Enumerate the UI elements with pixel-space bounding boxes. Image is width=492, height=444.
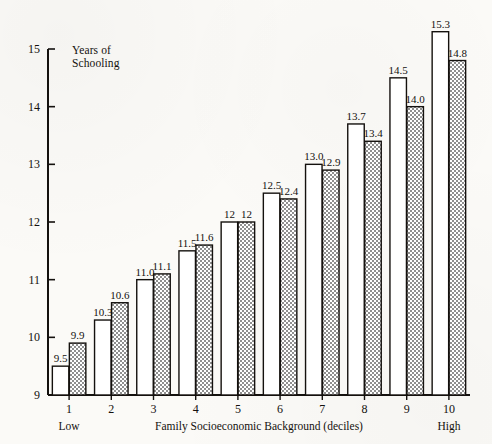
bar: [221, 222, 238, 395]
x-tick-label: 10: [443, 402, 455, 417]
x-axis-low-label: Low: [59, 420, 80, 432]
y-tick-label: 12: [8, 215, 40, 230]
bar: [365, 141, 382, 395]
bar-value-label: 14.8: [448, 47, 467, 59]
x-tick-label: 7: [319, 402, 325, 417]
bar: [238, 222, 255, 395]
bar: [449, 61, 466, 395]
x-tick-label: 3: [151, 402, 157, 417]
bar-value-label: 14.0: [406, 93, 425, 105]
bar: [306, 164, 323, 395]
bar: [112, 303, 129, 395]
bar-value-label: 12: [241, 208, 252, 220]
bar-value-label: 13.4: [363, 127, 382, 139]
y-tick-label: 10: [8, 330, 40, 345]
bar-value-label: 14.5: [389, 64, 408, 76]
bar: [137, 280, 154, 395]
bar: [154, 274, 171, 395]
y-axis-title: Years of Schooling: [72, 44, 120, 70]
bar-value-label: 9.5: [54, 352, 68, 364]
bar: [95, 320, 112, 395]
bar-value-label: 12.9: [321, 156, 340, 168]
bar-value-label: 9.9: [71, 329, 85, 341]
bar-value-label: 11.6: [195, 231, 214, 243]
x-tick-label: 1: [66, 402, 72, 417]
y-tick-label: 13: [8, 157, 40, 172]
bar: [280, 199, 297, 395]
y-tick-label: 14: [8, 99, 40, 114]
bar-value-label: 12.4: [279, 185, 298, 197]
bar: [263, 193, 280, 395]
x-tick-label: 8: [362, 402, 368, 417]
bar: [348, 124, 365, 395]
x-tick-label: 2: [108, 402, 114, 417]
bar-value-label: 13.7: [346, 110, 365, 122]
bar: [432, 32, 449, 395]
x-axis-title: Family Socioeconomic Background (deciles…: [155, 420, 363, 432]
bar: [196, 245, 213, 395]
bar: [179, 251, 196, 395]
bar-value-label: 10.6: [110, 289, 129, 301]
bar-value-label: 12: [224, 208, 235, 220]
y-tick-label: 15: [8, 42, 40, 57]
y-tick-label: 11: [8, 272, 40, 287]
bar: [69, 343, 86, 395]
bar: [52, 366, 69, 395]
x-tick-label: 9: [404, 402, 410, 417]
bar-value-label: 15.3: [431, 18, 450, 30]
bar-chart: 91011121314159.59.9110.310.6211.011.1311…: [0, 0, 492, 444]
bar: [323, 170, 340, 395]
x-tick-label: 6: [277, 402, 283, 417]
x-tick-label: 5: [235, 402, 241, 417]
bar-value-label: 11.1: [153, 260, 172, 272]
bars: [52, 32, 465, 395]
y-tick-label: 9: [8, 388, 40, 403]
x-axis-high-label: High: [437, 420, 460, 432]
bar: [390, 78, 407, 395]
bar-value-label: 10.3: [93, 306, 112, 318]
bar: [407, 107, 424, 395]
x-tick-label: 4: [193, 402, 199, 417]
